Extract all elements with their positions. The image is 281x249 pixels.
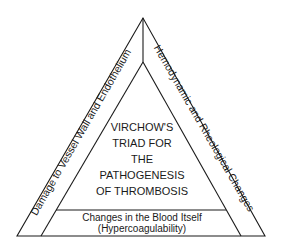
bottom-label-line-2: (Hypercoagulability): [98, 223, 186, 234]
title-line-5: OF THROMBOSIS: [96, 185, 188, 197]
title-line-2: TRIAD FOR: [112, 137, 171, 149]
title-line-1: VIRCHOW'S: [111, 121, 174, 133]
center-title: VIRCHOW'S TRIAD FOR THE PATHOGENESIS OF …: [96, 121, 188, 197]
virchows-triad-diagram: VIRCHOW'S TRIAD FOR THE PATHOGENESIS OF …: [0, 0, 281, 249]
title-line-4: PATHOGENESIS: [99, 169, 184, 181]
title-line-3: THE: [131, 153, 153, 165]
bottom-label-line-1: Changes in the Blood Itself: [82, 212, 202, 223]
